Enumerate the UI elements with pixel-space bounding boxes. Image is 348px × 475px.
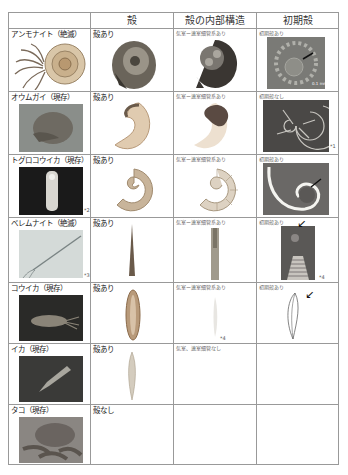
initial-shell-status: 初期殻なし xyxy=(259,93,284,100)
internal-structure-status: 気室ー連室細管系あり xyxy=(176,30,226,37)
footnote-marker: *3 xyxy=(84,272,90,278)
spirula-photo xyxy=(19,167,83,215)
scale-bar-label: 0.1 mm xyxy=(312,81,327,86)
internal-structure-status: 気室ー連室細管系あり xyxy=(176,93,226,100)
belemnite-initial-shell-photo xyxy=(281,226,315,280)
header-shell: 殻 xyxy=(91,13,173,29)
shell-status: 殻あり xyxy=(93,345,114,354)
nautilus-photo xyxy=(19,104,83,152)
internal-structure-status: 気室ー連室細管系あり xyxy=(176,156,226,163)
table-row-squid: イカ（現存） xyxy=(9,344,90,404)
species-name: コウイカ（現存） xyxy=(11,284,67,293)
species-name: アンモナイト（絶滅） xyxy=(11,30,81,39)
internal-structure-status: 気室ー連室細管系あり xyxy=(176,219,226,226)
ammonite-illustration xyxy=(13,40,87,90)
nautilus-section-photo xyxy=(188,101,238,153)
header-blank xyxy=(9,13,90,29)
internal-structure-status: 気室、連室細管なし xyxy=(176,345,221,352)
initial-shell-status: 初期殻あり xyxy=(259,156,284,163)
ammonite-section-photo xyxy=(192,38,238,90)
arrow-indicator: ↙ xyxy=(297,218,306,229)
footnote-marker: *4 xyxy=(220,335,226,341)
comparison-table: 殻 殻の内部構造 初期殻 アンモナイト（絶滅） 殻あり 気室ー連室細管系あり xyxy=(8,12,339,465)
table-row-octopus: タコ（現存） xyxy=(9,405,90,465)
nautilus-initial-shell-photo xyxy=(263,100,329,152)
initial-shell-status: 初期殻あり xyxy=(259,219,284,226)
nautilus-shell-photo xyxy=(109,101,159,153)
cuttlebone-initial-shell-drawing xyxy=(283,291,303,341)
species-name: タコ（現存） xyxy=(11,406,53,415)
table-row-ammonite: アンモナイト（絶滅） xyxy=(9,29,90,91)
spirula-initial-shell-photo xyxy=(263,163,329,215)
belemnite-shell-photo xyxy=(125,224,139,280)
belemnite-section-photo xyxy=(208,228,222,280)
header-initial-shell: 初期殻 xyxy=(257,13,339,29)
ammonite-shell-photo xyxy=(109,39,159,91)
shell-status: 殻なし xyxy=(93,406,114,415)
header-internal-structure: 殻の内部構造 xyxy=(174,13,256,29)
table-row-nautilus: オウムガイ（現存） xyxy=(9,92,90,154)
footnote-marker: *1 xyxy=(330,143,336,149)
initial-shell-status: 初期殻あり xyxy=(259,30,284,37)
squid-gladius-photo xyxy=(126,352,138,402)
species-name: イカ（現存） xyxy=(11,345,53,354)
belemnite-illustration xyxy=(19,230,83,278)
cuttlebone-section-photo xyxy=(210,297,220,337)
cuttlebone-photo xyxy=(125,289,141,341)
footnote-marker: *4 xyxy=(319,274,325,280)
species-name: オウムガイ（現存） xyxy=(11,93,74,102)
table-row-cuttlefish: コウイカ（現存） xyxy=(9,283,90,343)
shell-status: 殻あり xyxy=(93,219,114,228)
internal-structure-status: 気室ー連室細管系あり xyxy=(176,284,226,291)
table-row-spirula: トグロコウイカ（現存） *2 xyxy=(9,155,90,217)
footnote-marker: *2 xyxy=(84,207,90,213)
cuttlefish-photo xyxy=(19,295,83,341)
spirula-section-photo xyxy=(192,165,242,215)
shell-status: 殻あり xyxy=(93,30,114,39)
species-name: トグロコウイカ（現存） xyxy=(11,156,88,165)
table-row-belemnite: ベレムナイト（絶滅） *3 xyxy=(9,218,90,282)
spirula-shell-photo xyxy=(109,165,159,215)
octopus-photo xyxy=(19,417,83,463)
initial-shell-status: 初期殻あり xyxy=(259,284,284,291)
shell-status: 殻あり xyxy=(93,284,114,293)
shell-status: 殻あり xyxy=(93,156,114,165)
arrow-indicator: ↙ xyxy=(305,289,314,300)
species-name: ベレムナイト（絶滅） xyxy=(11,219,81,228)
squid-photo xyxy=(19,356,83,402)
